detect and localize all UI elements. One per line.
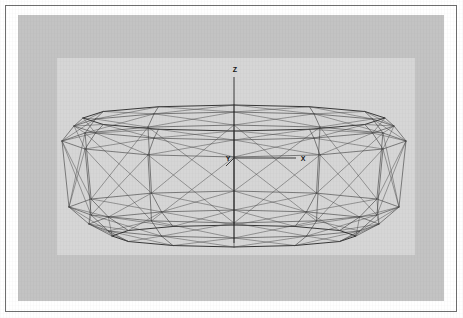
figure-root: Z X Y	[0, 0, 463, 318]
wireframe-model-canvas: Z X Y	[0, 0, 463, 318]
z-axis-label: Z	[233, 66, 238, 73]
x-axis-label: X	[301, 155, 306, 162]
coordinate-axes: Z X Y	[226, 66, 306, 243]
y-axis-label: Y	[226, 155, 231, 162]
